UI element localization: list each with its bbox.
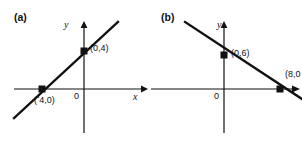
panel-b-point-marker-x-intercept (277, 86, 284, 93)
panel-a-point-label-y-intercept: (0,4) (90, 44, 109, 53)
panel-a-origin-label: 0 (74, 92, 79, 101)
panel-a-y-axis-label: y (64, 20, 68, 30)
panel-b-plotted-line (185, 22, 302, 99)
panel-b-point-label-x-intercept: (8,0 (285, 70, 301, 79)
panel-b-point-label-y-intercept: (0,6) (231, 49, 250, 58)
panel-a-point-marker-y-intercept (81, 48, 88, 55)
panel-b-origin-label: 0 (214, 92, 219, 101)
panel-b-y-axis (221, 21, 228, 133)
panel-b-graph (151, 0, 302, 145)
panel-a-y-axis (81, 21, 88, 133)
panel-b: (b) y 0 (0,6) (8,0 (151, 0, 302, 145)
two-panel-line-graph-figure: (a) y x 0 (-4,0) (0,4) (0, 0, 302, 145)
panel-a-plotted-line (14, 22, 118, 118)
panel-a-x-axis (14, 86, 148, 93)
panel-a-x-axis-label: x (133, 92, 137, 102)
panel-a-point-label-x-intercept: (-4,0) (34, 93, 55, 105)
panel-a: (a) y x 0 (-4,0) (0,4) (0, 0, 151, 145)
panel-b-point-marker-y-intercept (221, 52, 228, 59)
panel-a-point-marker-x-intercept (39, 86, 46, 93)
panel-b-y-axis-label: y (217, 20, 221, 30)
panel-a-graph (0, 0, 151, 145)
